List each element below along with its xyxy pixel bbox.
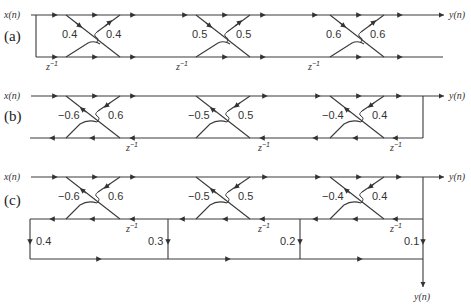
output-label-c-bottom: y(n) <box>413 291 431 303</box>
k-left-label: 0.4 <box>62 28 77 40</box>
diagram-a: (a) x(n) y(n) z−1 z−1 z−1 <box>3 9 466 72</box>
ladder-coef-label: 0.4 <box>36 235 51 247</box>
diagram-b: (b) x(n) y(n) z−1 z−1 z−1 −0.6 0.6 <box>3 90 466 153</box>
input-label-b: x(n) <box>3 90 21 102</box>
k-left-label: −0.6 <box>58 109 80 121</box>
delay-label: z−1 <box>389 141 402 153</box>
input-label-c: x(n) <box>3 171 21 183</box>
k-left-label: −0.4 <box>322 109 344 121</box>
k-left-label: −0.5 <box>188 190 210 202</box>
k-right-label: 0.4 <box>372 109 387 121</box>
delay-label: z−1 <box>307 60 320 72</box>
k-left-label: 0.5 <box>192 28 207 40</box>
ladder-coef-label: 0.2 <box>280 235 295 247</box>
k-right-label: 0.6 <box>370 28 385 40</box>
diagram-c: (c) x(n) y(n) y(n) 0.4 0.3 0.2 0.1 <box>3 171 466 303</box>
k-left-label: −0.6 <box>58 190 80 202</box>
part-label-c: (c) <box>4 192 21 209</box>
delay-label: z−1 <box>175 60 188 72</box>
k-left-label: −0.4 <box>322 190 344 202</box>
delay-label: z−1 <box>257 141 270 153</box>
output-label-c-top: y(n) <box>448 171 466 183</box>
input-label-a: x(n) <box>3 9 21 21</box>
delay-label: z−1 <box>45 60 58 72</box>
delay-label: z−1 <box>257 222 270 234</box>
ladder-coef-label: 0.1 <box>404 235 419 247</box>
k-right-label: 0.4 <box>106 28 121 40</box>
part-label-b: (b) <box>4 108 22 125</box>
k-right-label: 0.5 <box>238 109 253 121</box>
output-label-a: y(n) <box>448 9 466 21</box>
delay-label: z−1 <box>389 222 402 234</box>
k-right-label: 0.4 <box>372 190 387 202</box>
output-label-b: y(n) <box>448 90 466 102</box>
delay-label: z−1 <box>125 141 138 153</box>
part-label-a: (a) <box>4 28 21 45</box>
k-left-label: −0.5 <box>188 109 210 121</box>
k-right-label: 0.5 <box>236 28 251 40</box>
k-right-label: 0.5 <box>238 190 253 202</box>
k-right-label: 0.6 <box>108 190 123 202</box>
delay-label: z−1 <box>125 222 138 234</box>
lattice-diagrams: (a) x(n) y(n) z−1 z−1 z−1 <box>0 0 471 305</box>
ladder-coef-label: 0.3 <box>148 235 163 247</box>
k-right-label: 0.6 <box>108 109 123 121</box>
k-left-label: 0.6 <box>326 28 341 40</box>
